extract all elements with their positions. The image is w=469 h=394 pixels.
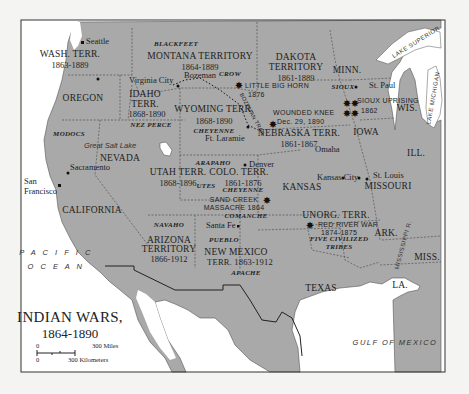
label-tribe-nez-perce: NEZ PERCE: [130, 122, 171, 129]
label-battle-sioux-uprising-year: 1862: [361, 107, 378, 114]
label-city-san-francisco: San: [24, 177, 37, 186]
label-gulf-of-mexico: GULF OF MEXICO: [353, 339, 438, 347]
label-iowa: IOWA: [353, 128, 379, 138]
label-tribe-navaho: NAVAHO: [154, 222, 184, 229]
label-city-virginia-city: Virginia City: [129, 76, 173, 85]
label-tribe-apache: APACHE: [231, 270, 261, 277]
label-battle-sioux-uprising: SIOUX UPRISING: [357, 97, 419, 104]
label-montana-territory: MONTANA TERRITORY: [147, 52, 252, 62]
label-nebraska-years: 1861-1867: [281, 140, 318, 149]
label-city-omaha: Omaha: [315, 145, 340, 154]
label-wash-terr: WASH. TERR.: [40, 50, 100, 60]
label-tribe-sioux: SIOUX: [332, 84, 355, 91]
label-tribe-five-civilized-2: TRIBES: [326, 244, 353, 251]
map-title: INDIAN WARS,: [17, 310, 123, 325]
label-pacific-ocean-2: O C E A N: [28, 263, 85, 271]
label-city-santa-fe: Santa Fe: [206, 221, 236, 230]
label-battle-red-river-years: 1874-1875: [321, 229, 357, 236]
label-ill: ILL.: [407, 149, 425, 159]
label-great-salt-lake: Great Salt Lake: [84, 142, 136, 150]
scale-miles-zero: 0: [36, 343, 39, 350]
label-battle-wounded-knee: WOUNDED KNEE: [273, 109, 335, 116]
label-city-ft-laramie: Ft. Laramie: [205, 134, 245, 143]
scale-km-zero: 0: [36, 357, 39, 364]
label-kansas: KANSAS: [282, 183, 321, 193]
label-battle-red-river-war: RED RIVER WAR: [318, 221, 378, 228]
scale-miles-label: 300 Miles: [92, 343, 118, 350]
label-nebraska-terr: NEBRASKA TERR.: [258, 129, 340, 139]
label-city-denver: Denver: [249, 160, 274, 169]
label-california: CALIFORNIA: [62, 206, 122, 216]
label-city-bozeman: Bozeman: [184, 71, 216, 80]
label-city-st-paul: St. Paul: [369, 81, 395, 90]
map-subtitle: 1864-1890: [42, 327, 98, 340]
svg-text:✸: ✸: [306, 220, 314, 231]
label-battle-little-big-horn-year: 1876: [248, 91, 265, 98]
label-utah-terr: UTAH TERR.: [150, 168, 206, 178]
label-city-seattle: Seattle: [86, 37, 109, 46]
label-ark: ARK.: [374, 229, 397, 239]
label-wyoming-years: 1868-1890: [196, 117, 233, 126]
label-tribe-arapaho: ARAPAHO: [195, 160, 230, 167]
label-battle-wounded-knee-date: Dec. 29, 1890: [277, 118, 325, 125]
label-city-san-francisco-2: Francisco: [24, 187, 57, 196]
label-dakota-territory-2: TERRITORY: [269, 63, 323, 73]
label-idaho-years: 1868-1890: [129, 110, 166, 119]
label-texas: TEXAS: [305, 284, 337, 294]
label-oregon: OREGON: [63, 94, 104, 104]
label-arizona-years: 1866-1912: [151, 255, 188, 264]
label-tribe-modocs: MODOCS: [53, 131, 85, 138]
label-tribe-cheyenne-co: CHEYENNE: [223, 187, 264, 194]
label-colo-terr: COLO. TERR.: [209, 168, 268, 178]
label-tribe-blackfeet: BLACKFEET: [154, 41, 198, 48]
label-missouri: MISSOURI: [365, 182, 412, 192]
label-unorg-terr: UNORG. TERR.: [302, 211, 369, 221]
label-city-kansas-city: Kansas City: [317, 173, 358, 182]
svg-text:✸: ✸: [351, 108, 359, 119]
label-tribe-pueblo: PUEBLO: [209, 237, 239, 244]
label-battle-sand-creek-2: MASSACRE 1864: [204, 204, 265, 211]
label-city-st-louis: St. Louis: [373, 171, 404, 180]
label-miss: MISS.: [414, 253, 440, 263]
label-tribe-utes: UTES: [196, 183, 215, 190]
svg-text:✸: ✸: [235, 80, 243, 91]
label-wash-years: 1863-1889: [52, 61, 89, 70]
label-tribe-comanche: COMANCHE: [225, 213, 268, 220]
label-tribe-five-civilized: FIVE CIVILIZED: [310, 236, 368, 243]
label-city-sacramento: Sacramento: [70, 163, 110, 172]
label-battle-little-big-horn: LITTLE BIG HORN: [245, 82, 309, 89]
label-tribe-crow: CROW: [219, 71, 241, 78]
label-utah-years: 1868-1896: [160, 179, 197, 188]
label-pacific-ocean-1: P A C I F I C: [19, 249, 93, 257]
label-wis: WIS.: [397, 104, 418, 114]
scale-km-label: 300 Kilometers: [68, 357, 108, 364]
label-wyoming-terr: WYOMING TERR.: [174, 105, 253, 115]
label-new-mexico-terr-2: TERR. 1863-1912: [207, 258, 273, 267]
label-battle-sand-creek: SAND CREEK: [210, 196, 259, 203]
label-minn: MINN.: [333, 66, 362, 76]
label-la: LA.: [392, 281, 408, 291]
